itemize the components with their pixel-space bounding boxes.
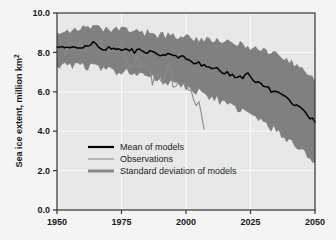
y-axis-title-text: Sea ice extent, million km — [14, 58, 24, 168]
y-tick-label: 6.0 — [37, 87, 50, 97]
y-axis-title: Sea ice extent, million km2 — [13, 54, 24, 168]
y-tick-label: 10.0 — [32, 8, 50, 18]
chart-figure: 19501975200020252050 0.02.04.06.08.010.0… — [0, 0, 336, 240]
svg-text:Sea ice extent, million km2: Sea ice extent, million km2 — [13, 54, 24, 168]
legend-label: Observations — [120, 154, 174, 164]
x-tick-label: 1975 — [111, 217, 131, 227]
y-tick-label: 4.0 — [37, 126, 50, 136]
y-tick-label: 8.0 — [37, 48, 50, 58]
x-tick-label: 1950 — [47, 217, 67, 227]
sea-ice-extent-chart: 19501975200020252050 0.02.04.06.08.010.0… — [0, 0, 336, 240]
y-tick-label: 2.0 — [37, 166, 50, 176]
x-tick-label: 2050 — [305, 217, 325, 227]
y-tick-label: 0.0 — [37, 205, 50, 215]
y-axis-title-superscript: 2 — [13, 54, 20, 58]
x-tick-label: 2000 — [176, 217, 196, 227]
legend-label: Standard deviation of models — [120, 166, 237, 176]
legend-label: Mean of models — [120, 142, 185, 152]
x-tick-label: 2025 — [240, 217, 260, 227]
